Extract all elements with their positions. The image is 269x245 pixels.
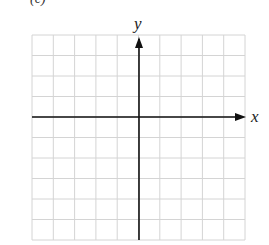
x-axis-arrow-icon: [235, 113, 246, 121]
coordinate-grid-figure: (c) x y: [0, 0, 269, 245]
coordinate-plane: x y: [0, 0, 269, 245]
y-axis-label: y: [132, 14, 142, 33]
x-axis-label: x: [250, 107, 259, 126]
y-axis-arrow-icon: [135, 37, 143, 48]
part-label: (c): [30, 0, 46, 7]
axes: [32, 37, 246, 240]
